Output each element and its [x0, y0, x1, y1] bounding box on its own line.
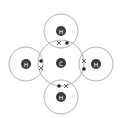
atom-label: C	[59, 60, 63, 67]
hydrogen-nucleus-bottom: H	[56, 92, 66, 102]
dot-electron	[39, 59, 43, 63]
dot-electron	[65, 41, 69, 45]
dot-electron	[57, 84, 61, 88]
carbon-nucleus: C	[56, 58, 66, 68]
atom-label: H	[94, 61, 99, 68]
hydrogen-nucleus-left: H	[21, 59, 31, 69]
dot-electron	[82, 67, 86, 71]
hydrogen-nucleus-top: H	[56, 26, 66, 36]
atom-label: H	[24, 61, 29, 68]
atom-label: H	[59, 94, 64, 101]
methane-dot-cross-diagram: H H H H C	[0, 0, 122, 118]
hydrogen-nucleus-right: H	[91, 59, 101, 69]
atom-label: H	[59, 28, 64, 35]
bond-top	[57, 41, 69, 45]
cross-electron	[57, 41, 61, 45]
